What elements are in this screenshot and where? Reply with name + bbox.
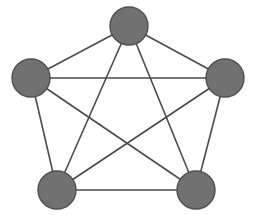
- graph-node-top: [110, 7, 148, 45]
- graph-node-left: [12, 59, 50, 97]
- complete-graph-diagram: [0, 0, 256, 215]
- node-layer: [12, 7, 244, 209]
- graph-canvas: [0, 0, 256, 215]
- edge-layer: [31, 26, 225, 190]
- graph-edge-top-bottom-right: [129, 26, 196, 190]
- graph-node-bottom-left: [38, 171, 76, 209]
- graph-node-right: [206, 59, 244, 97]
- graph-node-bottom-right: [177, 171, 215, 209]
